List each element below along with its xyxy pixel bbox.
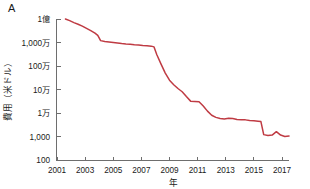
x-tick-label: 2005 [104, 166, 123, 175]
x-tick-label: 2011 [189, 166, 207, 175]
x-tick-label: 2017 [273, 166, 292, 175]
y-tick-label: 100万 [28, 62, 50, 71]
y-tick-label: 100 [36, 156, 50, 165]
line-chart: 1億1,000万100万10万1万1,000100 20012003200520… [0, 0, 310, 189]
y-tick-label: 1万 [37, 109, 50, 118]
y-axis-title: 費用（米ドル） [2, 58, 13, 121]
x-tick-label: 2009 [160, 166, 179, 175]
y-tick-label: 10万 [33, 86, 50, 95]
x-axis-tick-labels: 200120032005200720092011201320152017 [48, 166, 292, 175]
x-tick-label: 2001 [48, 166, 67, 175]
axis-tick-marks [57, 19, 283, 161]
y-tick-label: 1,000万 [22, 39, 51, 48]
y-axis-tick-labels: 1億1,000万100万10万1万1,000100 [22, 14, 51, 165]
x-tick-label: 2013 [217, 166, 236, 175]
x-tick-label: 2007 [132, 166, 151, 175]
data-series-line [65, 19, 289, 137]
figure-panel: A 1億1,000万100万10万1万1,000100 200120032005… [0, 0, 310, 189]
x-axis-title: 年 [169, 177, 178, 188]
x-tick-label: 2003 [76, 166, 95, 175]
y-tick-label: 1億 [37, 14, 50, 24]
x-tick-label: 2015 [245, 166, 264, 175]
y-tick-label: 1,000 [30, 133, 51, 142]
